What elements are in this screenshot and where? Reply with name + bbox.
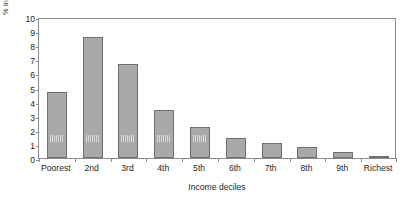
bar-slot [111, 19, 147, 158]
x-tick-mark [75, 158, 76, 162]
y-tick-label: 2 [5, 128, 35, 137]
y-tick-label: 9 [5, 29, 35, 38]
y-tick-label: 5 [5, 85, 35, 94]
bar[interactable] [47, 92, 67, 158]
x-tick-mark [146, 158, 147, 162]
y-tick-label: 10 [5, 15, 35, 24]
bar-label-artifact [121, 135, 135, 142]
bar-slot [182, 19, 218, 158]
y-tick-label: 4 [5, 99, 35, 108]
bar-label-artifact [193, 135, 207, 142]
bar[interactable] [83, 37, 103, 158]
bar-label-artifact [50, 135, 64, 142]
bar-slot [75, 19, 111, 158]
bar-slot [325, 19, 361, 158]
y-tick-label: 3 [5, 113, 35, 122]
plot-area: 109876543210 [38, 18, 396, 159]
y-tick-label: 6 [5, 71, 35, 80]
bar[interactable] [297, 147, 317, 158]
x-axis-title: Income deciles [38, 182, 396, 192]
x-tick-mark [218, 158, 219, 162]
bar-slot [146, 19, 182, 158]
bar[interactable] [154, 110, 174, 158]
bar[interactable] [226, 138, 246, 158]
bar-slot [39, 19, 75, 158]
x-tick-mark [39, 158, 40, 162]
bar-label-artifact [86, 135, 100, 142]
y-tick-label: 7 [5, 57, 35, 66]
x-tick-mark [396, 158, 397, 162]
x-tick-mark [182, 158, 183, 162]
bar[interactable] [262, 143, 282, 159]
bar-slot [218, 19, 254, 158]
bar[interactable] [190, 127, 210, 158]
bar-slot [290, 19, 326, 158]
y-tick-label: 8 [5, 43, 35, 52]
x-tick-mark [361, 158, 362, 162]
bar[interactable] [333, 152, 353, 158]
x-tick-label-richest: Richest [356, 164, 400, 173]
y-tick-label: 0 [5, 156, 35, 165]
x-tick-mark [290, 158, 291, 162]
bar-chart-figure: % increase in disposable income 10987654… [0, 0, 420, 198]
chart-title [0, 0, 420, 4]
bar-slot [361, 19, 397, 158]
y-tick-label: 1 [5, 142, 35, 151]
x-tick-mark [111, 158, 112, 162]
x-tick-mark [254, 158, 255, 162]
bar[interactable] [369, 156, 389, 158]
x-tick-mark [325, 158, 326, 162]
bar[interactable] [118, 64, 138, 158]
bar-label-artifact [157, 135, 171, 142]
bar-slot [254, 19, 290, 158]
